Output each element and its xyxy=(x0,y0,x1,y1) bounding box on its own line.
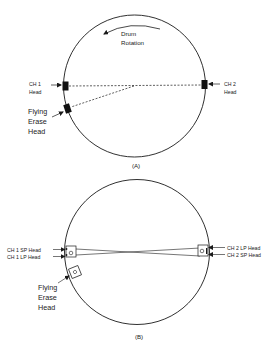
ch1-sp-to-ch2-sp-line xyxy=(76,249,200,256)
flying-erase-head-a xyxy=(63,103,71,113)
erase-head-label-b-line2: Erase xyxy=(38,293,57,302)
ch1-head-label-line2: Head xyxy=(29,89,42,95)
ch1-head-a xyxy=(63,82,69,91)
erase-dashed-line xyxy=(71,86,134,107)
ch1-head-label-line1: CH 1 xyxy=(29,81,41,87)
ch2-gap-mark xyxy=(206,248,207,254)
drum-rotation-label-line1: Drum xyxy=(121,30,136,37)
diagram-b: CH 1 SP Head CH 1 LP Head CH 2 LP Head C… xyxy=(7,180,261,341)
head-drum-figure: Drum Rotation CH 1 Head CH 2 Head Flying… xyxy=(0,0,275,346)
caption-a: (A) xyxy=(132,162,140,169)
erase-pointer-arrow-icon xyxy=(52,112,63,117)
erase-head-label-b-line1: Flying xyxy=(38,283,57,292)
drum-b xyxy=(65,180,210,325)
drum-rotation-label-line2: Rotation xyxy=(121,39,145,46)
ch2-head-label-line2: Head xyxy=(224,89,237,95)
caption-b: (B) xyxy=(135,333,143,340)
diagram-a: Drum Rotation CH 1 Head CH 2 Head Flying… xyxy=(28,15,237,169)
ch1-sp-gap-icon xyxy=(66,248,68,250)
ch2-sp-head-label: CH 2 SP Head xyxy=(227,252,261,258)
ch1-ch2-dashed-line xyxy=(69,85,202,86)
ch2-head-label-line1: CH 2 xyxy=(224,81,236,87)
ch1-lp-head-label: CH 1 LP Head xyxy=(7,254,40,260)
ch1-sp-head-label: CH 1 SP Head xyxy=(7,247,41,253)
erase-head-label-line1: Flying xyxy=(28,107,47,116)
flying-erase-head-b xyxy=(68,265,81,278)
ch1-lp-gap-icon xyxy=(66,254,68,256)
ch2-lp-head-label: CH 2 LP Head xyxy=(227,245,260,251)
ch2-head-a xyxy=(202,80,208,89)
erase-head-label-line2: Erase xyxy=(28,117,47,126)
erase-pointer-arrow-b-icon xyxy=(58,276,69,283)
erase-head-label-b-line3: Head xyxy=(38,303,55,312)
erase-head-label-line3: Head xyxy=(28,127,45,136)
ch1-lp-to-ch2-lp-line xyxy=(76,248,200,255)
